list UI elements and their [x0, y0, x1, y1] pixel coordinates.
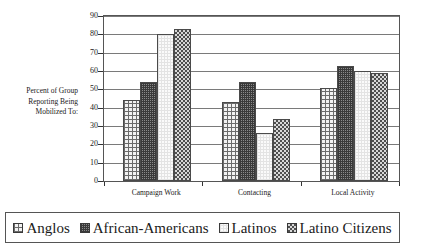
y-axis-tick-label: 30	[90, 122, 98, 130]
y-axis-tick	[98, 181, 103, 182]
y-axis-tick-label: 10	[90, 159, 98, 167]
legend-item-latino-citizens[interactable]: Latino Citizens	[287, 220, 392, 236]
bar-series-layer	[104, 16, 399, 181]
x-axis-tick	[104, 182, 105, 186]
legend-swatch-icon	[80, 223, 90, 233]
bar-anglos-contacting	[222, 102, 239, 181]
x-axis-tick-labels: Campaign WorkContactingLocal Activity	[103, 188, 400, 202]
legend-label: African-Americans	[93, 220, 209, 236]
y-axis-title-line-1: Percent of Group	[18, 86, 78, 97]
bar-latinos-campaign-work	[157, 34, 174, 181]
y-axis-tick-label: 60	[90, 67, 98, 75]
legend-label: Latino Citizens	[300, 220, 392, 236]
bar-chart: Percent of Group Reporting Being Mobiliz…	[0, 0, 424, 205]
legend-item-african-americans[interactable]: African-Americans	[80, 220, 209, 236]
bar-latinos-contacting	[256, 133, 273, 181]
legend-item-latinos[interactable]: Latinos	[219, 220, 277, 236]
y-axis-tick	[98, 34, 103, 35]
y-axis-tick	[98, 89, 103, 90]
bar-african-americans-contacting	[239, 82, 256, 181]
x-axis-tick	[399, 182, 400, 186]
bar-anglos-campaign-work	[123, 100, 140, 181]
y-axis-tick-label: 40	[90, 104, 98, 112]
bar-latinos-local-activity	[354, 71, 371, 181]
x-axis-tick-label: Contacting	[238, 188, 271, 197]
x-axis-tick	[202, 182, 203, 186]
bar-african-americans-local-activity	[337, 66, 354, 182]
y-axis-tick-label: 70	[90, 49, 98, 57]
y-axis-tick	[98, 71, 103, 72]
bar-latino-citizens-local-activity	[371, 73, 388, 181]
bar-african-americans-campaign-work	[140, 82, 157, 181]
legend-swatch-icon	[287, 223, 297, 233]
legend-swatch-icon	[219, 223, 229, 233]
y-axis-tick-label: 80	[90, 30, 98, 38]
y-axis-title-line-3: Mobilized To:	[18, 107, 78, 118]
y-axis-tick	[98, 16, 103, 17]
bar-latino-citizens-contacting	[273, 119, 290, 181]
y-axis-tick	[98, 144, 103, 145]
y-axis-tick	[98, 53, 103, 54]
y-axis-title: Percent of Group Reporting Being Mobiliz…	[18, 86, 78, 118]
bar-anglos-local-activity	[320, 88, 337, 182]
y-axis-tick	[98, 126, 103, 127]
y-axis-tick	[98, 163, 103, 164]
y-axis-title-line-2: Reporting Being	[18, 97, 78, 108]
y-axis-tick-label: 50	[90, 85, 98, 93]
y-axis-tick	[98, 108, 103, 109]
chart-legend: AnglosAfrican-AmericansLatinosLatino Cit…	[5, 212, 400, 243]
y-axis-tick-label: 90	[90, 12, 98, 20]
legend-item-anglos[interactable]: Anglos	[13, 220, 69, 236]
y-axis-tick-label: 20	[90, 140, 98, 148]
y-axis-tick-labels: 0102030405060708090	[78, 0, 98, 205]
legend-label: Anglos	[26, 220, 69, 236]
legend-swatch-icon	[13, 223, 23, 233]
x-axis-tick-label: Local Activity	[331, 188, 374, 197]
x-axis-tick	[301, 182, 302, 186]
legend-label: Latinos	[232, 220, 277, 236]
x-axis-tick-label: Campaign Work	[132, 188, 181, 197]
bar-latino-citizens-campaign-work	[174, 29, 191, 181]
